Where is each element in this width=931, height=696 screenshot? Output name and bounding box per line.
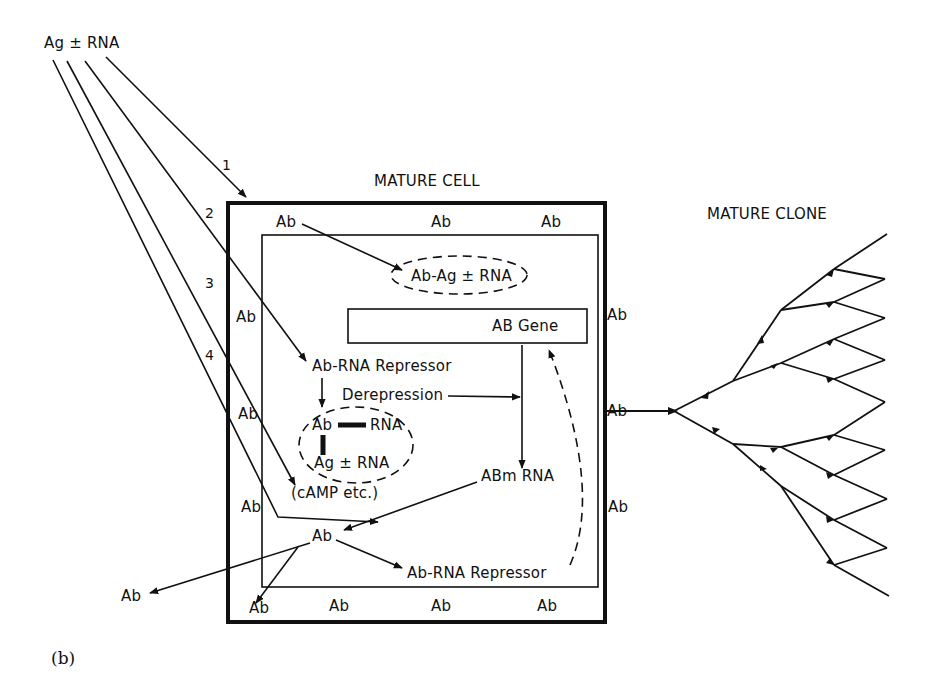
clone-division-tree [674, 234, 889, 596]
pathway-4-arrow [53, 60, 378, 522]
camp-label: (cAMP etc.) [291, 484, 378, 502]
complex-ab-ag-rna: Ab-Ag ± RNA [411, 267, 512, 285]
mature-clone-title: MATURE CLONE [707, 205, 827, 223]
membrane-ab-top-3: Ab [541, 213, 561, 231]
pathway-number-1: 1 [222, 157, 231, 173]
diagram-canvas: Ag ± RNA 1 2 3 4 MATURE CELL Ab Ab Ab Ab… [0, 0, 931, 696]
pathway-number-3: 3 [205, 275, 214, 291]
pathway-2-arrow [85, 61, 306, 361]
membrane-ab-right-3: Ab [608, 498, 628, 516]
pathway-1-arrow [106, 57, 246, 197]
membrane-ab-left-2: Ab [238, 405, 258, 423]
complex-mid-ab: Ab [312, 416, 332, 434]
repressor-top-label: Ab-RNA Repressor [312, 357, 452, 375]
membrane-ab-bottom-1: Ab [249, 599, 269, 617]
feedback-repression-arrow [549, 350, 582, 565]
abm-rna-label: ABm RNA [481, 467, 555, 485]
figure-caption: (b) [51, 648, 75, 668]
membrane-ab-bottom-2: Ab [329, 597, 349, 615]
complex-mid-rna: RNA [370, 416, 403, 434]
membrane-ab-right-1: Ab [607, 306, 627, 324]
clone-arrowheads [701, 269, 834, 565]
membrane-ab-top-2: Ab [431, 213, 451, 231]
membrane-ab-top-1: Ab [276, 213, 296, 231]
ab-gene-label: AB Gene [492, 317, 558, 335]
mature-cell-title: MATURE CELL [374, 172, 480, 190]
membrane-ab-bottom-4: Ab [537, 597, 557, 615]
pathway-number-2: 2 [205, 205, 214, 221]
membrane-ab-left-1: Ab [236, 308, 256, 326]
pathway-number-4: 4 [205, 347, 214, 363]
membrane-ab-left-3: Ab [241, 498, 261, 516]
derepression-arrow [448, 396, 520, 397]
repressor-bottom-label: Ab-RNA Repressor [407, 564, 547, 582]
cell-membrane [228, 203, 605, 622]
ab-to-repressor-arrow [336, 540, 402, 568]
source-label: Ag ± RNA [44, 34, 120, 52]
pathway-3-arrow [67, 61, 295, 485]
outside-ab-label: Ab [121, 587, 141, 605]
center-ab-label: Ab [312, 527, 332, 545]
derepression-label: Derepression [342, 386, 443, 404]
ab-to-complex-arrow [302, 224, 402, 270]
membrane-ab-bottom-3: Ab [431, 597, 451, 615]
complex-mid-ag-rna: Ag ± RNA [314, 454, 390, 472]
